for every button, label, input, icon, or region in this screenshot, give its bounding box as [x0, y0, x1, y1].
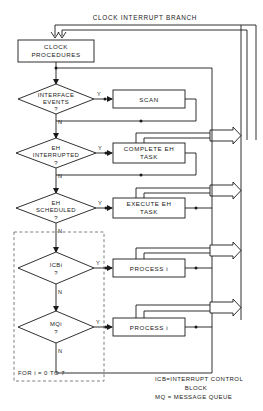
- edge-mq-yes-arrow: [107, 324, 113, 330]
- decision-icb-i-no-label: N: [58, 289, 62, 295]
- decision-mq-i-line1: MQi: [50, 321, 62, 327]
- decision-icb-i-yes-label: Y: [96, 260, 100, 266]
- decision-eh-interrupted-line3: ?: [54, 160, 58, 166]
- decision-eh-interrupted-yes-label: Y: [98, 145, 102, 151]
- edge-process-mq-rail-b: [144, 311, 210, 318]
- edge-interface-yes-arrow: [107, 96, 113, 102]
- hollow-arrow-3: [210, 242, 241, 259]
- junction-dot-scan-out: [140, 120, 143, 123]
- process-i-icb-label: PROCESS i: [130, 265, 168, 272]
- junction-dot-scan-in: [104, 98, 107, 101]
- decision-mq-i-line2: ?: [54, 329, 58, 335]
- decision-eh-interrupted-no-label: N: [58, 173, 62, 179]
- decision-eh-scheduled-line3: ?: [54, 215, 58, 221]
- edge-icb-yes-arrow: [107, 265, 113, 271]
- decision-mq-i-no-label: N: [58, 348, 62, 354]
- decision-eh-scheduled-line2: SCHEDULED: [36, 207, 76, 213]
- loop-label: FOR i = 0 TO 7: [18, 370, 65, 376]
- decision-mq-i: [18, 311, 94, 343]
- hollow-arrow-1: [210, 127, 241, 144]
- decision-icb-i-line1: ICBi: [50, 262, 63, 268]
- decision-interface-events-line1: INTERFACE: [38, 92, 75, 98]
- legend-line2: BLOCK: [185, 385, 208, 391]
- hollow-arrow-4: [210, 299, 241, 316]
- decision-interface-events-line3: ?: [54, 106, 58, 112]
- clock-procedures-label-line1: CLOCK: [44, 43, 68, 50]
- decision-eh-scheduled-no-label: N: [58, 228, 62, 234]
- decision-mq-i-yes-label: Y: [96, 319, 100, 325]
- legend-line3: MQ = MESSAGE QUEUE: [155, 394, 232, 400]
- decision-eh-scheduled-yes-label: Y: [98, 200, 102, 206]
- edge-eh-interrupted-yes-arrow: [107, 150, 113, 156]
- diagram-title: CLOCK INTERRUPT BRANCH: [93, 14, 197, 21]
- hollow-arrow-2: [210, 182, 241, 199]
- edge-process-icb-rail-a: [136, 248, 210, 259]
- decision-icb-i-line2: ?: [54, 270, 58, 276]
- process-complete-eh-task-line1: COMPLETE EH: [124, 145, 174, 152]
- decision-icb-i: [18, 252, 94, 284]
- flowchart-diagram: CLOCK INTERRUPT BRANCH CLOCK PROCEDURES …: [0, 0, 263, 411]
- edge-process-icb-rail-b: [144, 253, 210, 259]
- clock-procedures-label-line2: PROCEDURES: [31, 51, 80, 58]
- process-execute-eh-task-line1: EXECUTE EH: [126, 200, 171, 207]
- process-i-mq-label: PROCESS i: [130, 324, 168, 331]
- edge-complete-rail-b: [144, 138, 210, 143]
- process-execute-eh-task-line2: TASK: [140, 208, 158, 215]
- edge-process-mq-rail-a: [136, 305, 210, 318]
- junction-dot-execute-out: [195, 207, 198, 210]
- junction-dot-process-mq-out: [195, 326, 198, 329]
- junction-dot-process-icb-out: [195, 267, 198, 270]
- decision-interface-events-line2: EVENTS: [43, 99, 69, 105]
- legend-line1: ICB=INTERRUPT CONTROL: [155, 376, 243, 382]
- decision-eh-interrupted-line2: INTERRUPTED: [33, 152, 79, 158]
- decision-interface-events-no-label: N: [58, 119, 62, 125]
- flowchart-canvas: CLOCK INTERRUPT BRANCH CLOCK PROCEDURES …: [0, 0, 263, 411]
- process-scan-label: SCAN: [139, 96, 158, 103]
- decision-interface-events-yes-label: Y: [97, 91, 101, 97]
- decision-eh-scheduled-line1: EH: [52, 200, 61, 206]
- junction-dot-complete-out: [140, 174, 143, 177]
- process-complete-eh-task-line2: TASK: [140, 153, 158, 160]
- decision-eh-interrupted-line1: EH: [52, 145, 61, 151]
- edge-eh-scheduled-yes-arrow: [107, 205, 113, 211]
- edge-execute-rail-b: [144, 193, 210, 198]
